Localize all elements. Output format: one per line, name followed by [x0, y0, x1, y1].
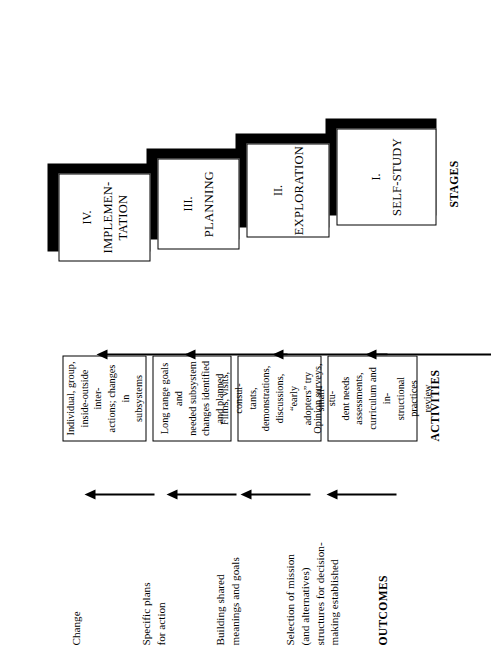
stage-exploration-face: II. EXPLORATION — [246, 143, 329, 237]
outcome-text-implementation: Change — [68, 465, 83, 645]
stage-to-activity-head-exploration — [272, 349, 283, 359]
activities-box-implementation[interactable]: Individual, group, inside-outside inter-… — [62, 355, 146, 441]
stage-exploration[interactable]: II. EXPLORATION — [246, 143, 329, 237]
stage-implementation[interactable]: IV. IMPLEMEN- TATION — [58, 173, 150, 261]
activities-box-exploration[interactable]: Films, visits, consul- tants, demonstrat… — [237, 355, 321, 441]
stage-self-study-number: I. — [368, 173, 383, 180]
outcome-arrow-shaft-planning — [174, 493, 236, 495]
activities-box-self-study[interactable]: Opinion surveys, stu- dent needs assessm… — [327, 355, 417, 441]
stage-to-activity-head-implementation — [96, 349, 107, 359]
stage-exploration-number: II. — [270, 185, 285, 196]
stage-implementation-number: IV. — [79, 210, 94, 224]
outcome-arrow-head-exploration — [240, 489, 251, 499]
outcome-text-planning: Specific plans for action — [138, 465, 168, 645]
stages-column-label-main: STAGES — [447, 160, 459, 207]
stage-implementation-name: IMPLEMEN- TATION — [100, 181, 129, 253]
activities-text-exploration: Films, visits, consul- tants, demonstrat… — [238, 356, 320, 440]
outcome-arrow-shaft-exploration — [248, 493, 310, 495]
activities-text-implementation: Individual, group, inside-outside inter-… — [63, 356, 145, 440]
stage-planning-name: PLANNING — [201, 170, 215, 236]
stage-self-study-face: I. SELF-STUDY — [336, 128, 436, 225]
outcomes-column-label: OUTCOMES — [376, 575, 388, 645]
stage-planning-number: III. — [180, 196, 195, 211]
outcome-arrow-head-implementation — [84, 489, 95, 499]
stage-planning[interactable]: III. PLANNING — [157, 158, 239, 249]
stage-to-activity-head-planning — [184, 349, 195, 359]
outcome-arrow-shaft-implementation — [92, 493, 154, 495]
stage-planning-face: III. PLANNING — [157, 158, 239, 249]
stage-self-study-name: SELF-STUDY — [389, 138, 403, 216]
stage-self-study[interactable]: I. SELF-STUDY — [336, 128, 436, 225]
stage-to-activity-head-self-study — [365, 349, 376, 359]
outcome-arrow-shaft-self-study — [334, 493, 396, 495]
stage-implementation-face: IV. IMPLEMEN- TATION — [58, 173, 150, 261]
outcome-arrow-head-self-study — [326, 489, 337, 499]
activities-text-self-study: Opinion surveys, stu- dent needs assessm… — [328, 356, 416, 440]
stage-exploration-name: EXPLORATION — [291, 145, 305, 234]
outcome-arrow-head-planning — [166, 489, 177, 499]
outcome-text-exploration: Building shared meanings and goals — [212, 465, 242, 645]
